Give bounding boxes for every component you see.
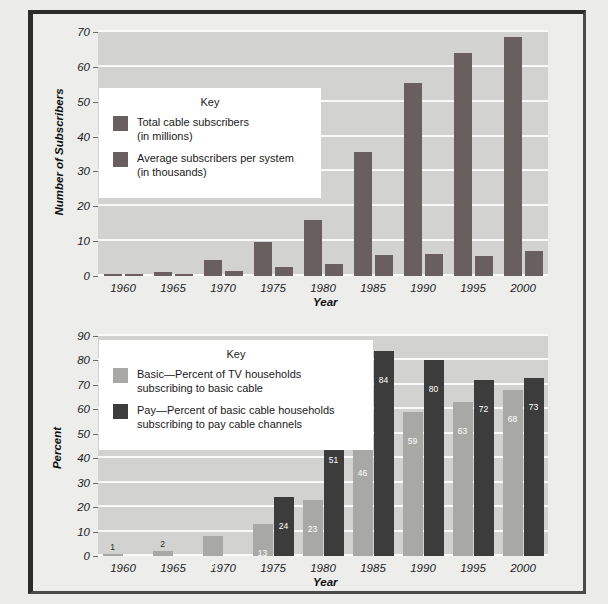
y-axis-tick-label: 50 — [62, 428, 90, 440]
bar — [353, 444, 373, 556]
bar — [175, 274, 193, 276]
bottom-chart-y-axis-title: Percent — [51, 398, 63, 498]
bottom-chart-key-label-line2: subscribing to basic cable — [137, 381, 301, 395]
bar — [104, 274, 122, 276]
y-axis-tick-mark — [93, 507, 98, 508]
bar — [304, 220, 322, 276]
bar — [325, 264, 343, 276]
bar-value-label: 23 — [299, 525, 327, 534]
bar — [354, 152, 372, 276]
bottom-chart-key-item-basic: Basic—Percent of TV households subscribi… — [113, 367, 373, 395]
bar-value-label: 46 — [349, 469, 377, 478]
y-axis-tick-label: 40 — [62, 131, 90, 143]
y-axis-tick-label: 20 — [62, 501, 90, 513]
key-swatch-icon — [113, 368, 128, 383]
y-axis-tick-mark — [93, 458, 98, 459]
y-axis-tick-label: 80 — [62, 354, 90, 366]
bottom-chart-key-label-line1: Basic—Percent of TV households — [137, 367, 301, 381]
y-axis-tick-label: 70 — [62, 26, 90, 38]
bar-value-label: 72 — [470, 405, 498, 414]
y-axis-tick-mark — [93, 385, 98, 386]
y-axis-tick-mark — [93, 32, 98, 33]
y-axis-tick-mark — [93, 276, 98, 277]
bar — [403, 412, 423, 556]
y-axis-tick-mark — [93, 483, 98, 484]
bar — [125, 274, 143, 276]
y-axis-tick-mark — [93, 556, 98, 557]
bar-value-label: 84 — [370, 376, 398, 385]
bar-value-label: 63 — [449, 427, 477, 436]
y-axis-tick-mark — [93, 241, 98, 242]
bar — [504, 37, 522, 276]
gridline — [98, 204, 548, 206]
bar — [154, 272, 172, 276]
bar-value-label: 13 — [249, 549, 277, 558]
bar — [225, 271, 243, 276]
top-chart-key: Key Total cable subscribers (in millions… — [99, 88, 321, 198]
y-axis-tick-label: 50 — [62, 96, 90, 108]
bar — [254, 242, 272, 276]
top-chart-y-axis-title: Number of Subscribers — [53, 72, 65, 232]
gridline — [98, 30, 548, 32]
y-axis-tick-label: 60 — [62, 403, 90, 415]
bar-value-label: 2 — [149, 540, 177, 549]
top-chart-subscribers: 010203040506070 196019651970197519801985… — [28, 10, 586, 310]
y-axis-tick-label: 20 — [62, 200, 90, 212]
top-chart-x-axis-title: Year — [313, 296, 338, 308]
bottom-chart-key-label-line2: subscribing to pay cable channels — [137, 417, 335, 431]
y-axis-tick-mark — [93, 409, 98, 410]
bar — [375, 255, 393, 276]
y-axis-tick-label: 70 — [62, 379, 90, 391]
y-axis-tick-mark — [93, 434, 98, 435]
bottom-chart-key-item-pay: Pay—Percent of basic cable households su… — [113, 403, 373, 431]
bar — [425, 254, 443, 276]
top-chart-key-title: Key — [99, 96, 321, 108]
bar-value-label: 24 — [270, 522, 298, 531]
bar-value-label: 73 — [520, 403, 548, 412]
x-axis-tick-label: 2000 — [493, 282, 553, 294]
bottom-chart-percent: 0102030405060708090 19601965197019751980… — [28, 318, 586, 594]
gridline — [98, 239, 548, 241]
top-chart-key-label-line1: Average subscribers per system — [137, 151, 294, 165]
y-axis-tick-label: 30 — [62, 165, 90, 177]
gridline — [98, 65, 548, 67]
bottom-chart-key: Key Basic—Percent of TV households subsc… — [99, 340, 373, 450]
bar-value-label: 80 — [420, 385, 448, 394]
bar — [204, 260, 222, 276]
y-axis-tick-label: 40 — [62, 452, 90, 464]
bottom-chart-key-title: Key — [99, 348, 373, 360]
key-swatch-icon — [113, 404, 128, 419]
y-axis-tick-label: 90 — [62, 330, 90, 342]
gridline — [98, 334, 548, 336]
top-chart-key-item-average: Average subscribers per system (in thous… — [113, 151, 321, 179]
y-axis-tick-label: 30 — [62, 477, 90, 489]
y-axis-tick-mark — [93, 137, 98, 138]
bar — [404, 83, 422, 276]
bar-value-label: 8 — [199, 561, 227, 570]
y-axis-tick-mark — [93, 206, 98, 207]
page-background: 010203040506070 196019651970197519801985… — [0, 0, 608, 604]
top-chart-key-label-line2: (in thousands) — [137, 165, 294, 179]
bar — [475, 256, 493, 276]
key-swatch-icon — [113, 152, 128, 167]
y-axis-tick-mark — [93, 336, 98, 337]
bar — [525, 251, 543, 276]
y-axis-tick-mark — [93, 532, 98, 533]
bar-value-label: 1 — [99, 543, 127, 552]
top-chart-key-label-line2: (in millions) — [137, 129, 249, 143]
bottom-chart-x-axis-title: Year — [313, 576, 338, 588]
y-axis-tick-label: 10 — [62, 235, 90, 247]
bar — [275, 267, 293, 276]
y-axis-tick-mark — [93, 360, 98, 361]
y-axis-tick-label: 0 — [62, 270, 90, 282]
y-axis-tick-mark — [93, 67, 98, 68]
y-axis-tick-label: 60 — [62, 61, 90, 73]
y-axis-tick-label: 0 — [62, 550, 90, 562]
bar-value-label: 68 — [499, 415, 527, 424]
y-axis-tick-mark — [93, 171, 98, 172]
top-chart-key-label-line1: Total cable subscribers — [137, 115, 249, 129]
bar-value-label: 59 — [399, 437, 427, 446]
bar — [103, 554, 123, 556]
bottom-chart-key-label-line1: Pay—Percent of basic cable households — [137, 403, 335, 417]
top-chart-key-item-total: Total cable subscribers (in millions) — [113, 115, 321, 143]
